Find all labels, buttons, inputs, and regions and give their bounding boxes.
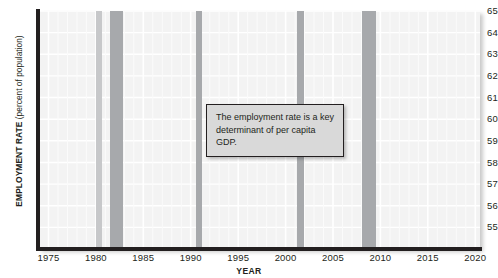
annotation-line-2: determinant of per capita GDP. <box>216 124 336 149</box>
y-tick-label: 61 <box>464 93 498 103</box>
x-tick-label: 1990 <box>171 252 211 263</box>
y-axis-title: EMPLOYMENT RATE (percent of population) <box>14 16 24 226</box>
x-axis-title: YEAR <box>0 266 498 276</box>
y-tick-label: 64 <box>464 28 498 38</box>
y-tick-label: 55 <box>464 222 498 232</box>
y-tick-label: 62 <box>464 71 498 81</box>
recession-band <box>196 11 203 249</box>
x-tick-label: 1980 <box>76 252 116 263</box>
x-tick-label: 1975 <box>29 252 69 263</box>
recession-band <box>96 11 102 249</box>
recession-band <box>362 11 376 249</box>
y-tick-label: 59 <box>464 136 498 146</box>
x-tick-label: 1995 <box>218 252 258 263</box>
x-tick-label: 2000 <box>266 252 306 263</box>
y-tick-label: 63 <box>464 49 498 59</box>
annotation-callout: The employment rate is a key determinant… <box>206 104 344 157</box>
y-axis-title-unit: (percent of population) <box>14 35 24 119</box>
y-axis-title-main: EMPLOYMENT RATE <box>14 122 24 207</box>
x-axis-spine <box>36 247 482 251</box>
y-tick-label: 57 <box>464 179 498 189</box>
x-tick-label: 2020 <box>455 252 495 263</box>
y-tick-label: 58 <box>464 158 498 168</box>
x-tick-label: 2005 <box>313 252 353 263</box>
x-tick-label: 2010 <box>360 252 400 263</box>
y-tick-label: 56 <box>464 201 498 211</box>
employment-rate-chart: 5556575859606162636465 19751980198519901… <box>0 0 498 278</box>
y-tick-label: 65 <box>464 6 498 16</box>
x-tick-label: 1985 <box>123 252 163 263</box>
y-tick-label: 60 <box>464 114 498 124</box>
y-axis-spine <box>36 9 40 251</box>
x-tick-label: 2015 <box>408 252 448 263</box>
recession-band <box>110 11 123 249</box>
annotation-line-1: The employment rate is a key <box>216 111 336 124</box>
